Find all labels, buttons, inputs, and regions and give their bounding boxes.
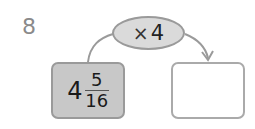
operation-oval: × 4 <box>112 16 185 50</box>
numerator: 5 <box>91 70 102 90</box>
mixed-number: 4 5 16 <box>67 70 108 112</box>
operand: 4 <box>151 21 164 45</box>
whole-part: 4 <box>67 77 82 105</box>
input-box: 4 5 16 <box>51 62 125 119</box>
fraction: 5 16 <box>85 70 109 112</box>
denominator: 16 <box>85 91 108 111</box>
multiply-icon: × <box>133 22 149 44</box>
answer-box[interactable] <box>171 62 245 119</box>
connector-line <box>88 34 113 62</box>
